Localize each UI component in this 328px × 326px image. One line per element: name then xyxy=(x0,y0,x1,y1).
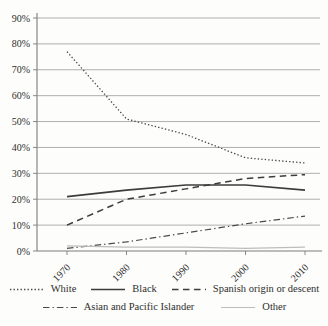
legend-item-white: White xyxy=(9,283,77,295)
y-tick-label: 70% xyxy=(12,64,30,75)
y-tick-label: 60% xyxy=(12,90,30,101)
white-line-sample xyxy=(9,284,45,295)
x-tick-label: 1970 xyxy=(50,262,72,282)
y-tick-label: 50% xyxy=(12,116,30,127)
y-axis-labels: 0%10%20%30%40%50%60%70%80%90% xyxy=(12,13,30,257)
y-tick-label: 40% xyxy=(12,142,30,153)
y-tick-label: 30% xyxy=(12,168,30,179)
x-tick-label: 2010 xyxy=(288,262,310,282)
x-tick-label: 1980 xyxy=(110,262,132,282)
legend-item-black: Black xyxy=(90,283,157,295)
axis-ticks xyxy=(33,18,305,255)
legend-label-asian-and-pacific-islander: Asian and Pacific Islander xyxy=(84,301,195,313)
x-axis-labels: 19701980199020002010 xyxy=(50,262,310,282)
legend-row-2: Asian and Pacific IslanderOther xyxy=(0,301,328,313)
axes xyxy=(37,13,322,251)
gridlines xyxy=(37,18,320,225)
y-tick-label: 90% xyxy=(12,13,30,24)
legend-label-black: Black xyxy=(132,283,157,295)
x-tick-label: 2000 xyxy=(229,262,251,282)
legend-item-other: Other xyxy=(220,301,286,313)
series-line-other xyxy=(67,246,305,249)
other-line-sample xyxy=(220,302,256,313)
series-line-white xyxy=(67,52,305,163)
y-tick-label: 80% xyxy=(12,38,30,49)
x-tick-label: 1990 xyxy=(169,262,191,282)
legend-label-spanish-origin-or-descent: Spanish origin or descent xyxy=(213,283,319,295)
legend-item-asian-and-pacific-islander: Asian and Pacific Islander xyxy=(42,301,195,313)
asian-and-pacific-islander-line-sample xyxy=(42,302,78,313)
legend-label-other: Other xyxy=(262,301,286,313)
legend-row-1: WhiteBlackSpanish origin or descent xyxy=(0,283,328,295)
series-line-black xyxy=(67,185,305,197)
line-chart: 0%10%20%30%40%50%60%70%80%90%19701980199… xyxy=(0,0,328,282)
legend-item-spanish-origin-or-descent: Spanish origin or descent xyxy=(171,283,319,295)
y-tick-label: 20% xyxy=(12,194,30,205)
series-lines xyxy=(67,52,305,249)
black-line-sample xyxy=(90,284,126,295)
series-line-asian-and-pacific-islander xyxy=(67,216,305,248)
legend-label-white: White xyxy=(51,283,77,295)
y-tick-label: 10% xyxy=(12,220,30,231)
series-line-spanish-origin-or-descent xyxy=(67,175,305,225)
line-chart-figure: 0%10%20%30%40%50%60%70%80%90%19701980199… xyxy=(0,0,328,326)
y-tick-label: 0% xyxy=(17,246,30,257)
spanish-origin-or-descent-line-sample xyxy=(171,284,207,295)
chart-legend: WhiteBlackSpanish origin or descent Asia… xyxy=(0,283,328,313)
